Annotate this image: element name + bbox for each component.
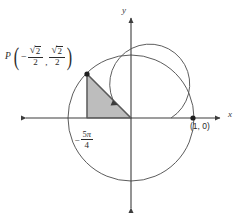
angle-sign: − bbox=[74, 136, 80, 145]
point-p-name: P bbox=[5, 52, 11, 62]
angle-fraction: 5π 4 bbox=[81, 130, 94, 150]
point-p-x-denominator: 2 bbox=[33, 58, 38, 68]
unit-circle-diagram bbox=[0, 0, 243, 221]
point-p-x-sign: − bbox=[20, 52, 27, 62]
point-p-y-fraction: √2 2 bbox=[49, 46, 65, 68]
point-p-x-radicand: 2 bbox=[35, 46, 42, 56]
point-p-y-numerator: √2 bbox=[49, 46, 65, 58]
angle-sweep-arc bbox=[110, 44, 190, 118]
point-p-y-radicand: 2 bbox=[56, 46, 63, 56]
point-p-comma: , bbox=[44, 58, 49, 67]
point-p-y-denominator: 2 bbox=[55, 58, 60, 68]
point-p-marker bbox=[84, 71, 89, 76]
point-one-zero-marker bbox=[190, 115, 195, 120]
figure-canvas: y x (1, 0) P ( − √2 2 , √2 2 ) bbox=[0, 0, 243, 221]
angle-measure-label: − 5π 4 bbox=[74, 130, 94, 150]
point-p-x-numerator: √2 bbox=[28, 46, 44, 58]
angle-numerator: 5π bbox=[81, 130, 94, 140]
point-p-label: P ( − √2 2 , √2 2 ) bbox=[5, 46, 74, 68]
point-p-open-paren: ( bbox=[13, 46, 18, 67]
angle-denominator: 4 bbox=[85, 140, 90, 150]
y-axis-label: y bbox=[122, 6, 126, 15]
x-axis-label: x bbox=[228, 110, 232, 119]
point-one-zero-label: (1, 0) bbox=[190, 122, 210, 131]
pi-symbol-icon: π bbox=[87, 129, 91, 139]
point-p-x-fraction: √2 2 bbox=[28, 46, 44, 68]
point-p-close-paren: ) bbox=[67, 46, 72, 67]
